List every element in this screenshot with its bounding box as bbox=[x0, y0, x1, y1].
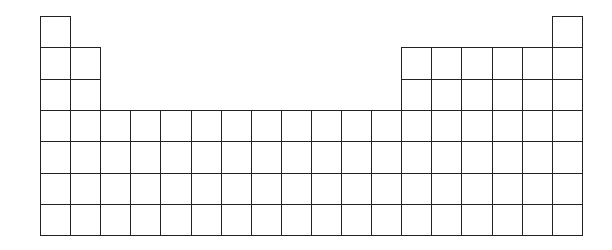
element-cell bbox=[371, 204, 402, 237]
element-cell bbox=[221, 173, 252, 206]
element-cell bbox=[251, 141, 282, 174]
element-cell bbox=[461, 173, 492, 206]
periodic-table-grid bbox=[0, 0, 612, 250]
element-cell bbox=[40, 173, 71, 206]
element-cell bbox=[130, 204, 161, 237]
element-cell bbox=[160, 110, 191, 143]
element-cell bbox=[40, 141, 71, 174]
element-cell bbox=[160, 141, 191, 174]
element-cell bbox=[461, 204, 492, 237]
element-cell bbox=[492, 79, 523, 112]
element-cell bbox=[221, 141, 252, 174]
element-cell bbox=[371, 110, 402, 143]
element-cell bbox=[221, 204, 252, 237]
element-cell bbox=[522, 204, 553, 237]
element-cell bbox=[552, 79, 583, 112]
element-cell bbox=[461, 79, 492, 112]
element-cell bbox=[160, 204, 191, 237]
element-cell bbox=[492, 173, 523, 206]
element-cell bbox=[191, 173, 222, 206]
element-cell bbox=[552, 141, 583, 174]
element-cell bbox=[100, 204, 131, 237]
element-cell bbox=[431, 204, 462, 237]
element-cell bbox=[70, 47, 101, 80]
element-cell bbox=[492, 47, 523, 80]
element-cell bbox=[281, 141, 312, 174]
element-cell bbox=[100, 141, 131, 174]
element-cell bbox=[341, 110, 372, 143]
element-cell bbox=[492, 204, 523, 237]
element-cell bbox=[431, 173, 462, 206]
element-cell bbox=[281, 204, 312, 237]
element-cell bbox=[552, 16, 583, 49]
element-cell bbox=[311, 141, 342, 174]
element-cell bbox=[431, 47, 462, 80]
element-cell bbox=[40, 79, 71, 112]
element-cell bbox=[552, 110, 583, 143]
element-cell bbox=[311, 110, 342, 143]
element-cell bbox=[401, 79, 432, 112]
element-cell bbox=[251, 110, 282, 143]
element-cell bbox=[130, 173, 161, 206]
element-cell bbox=[401, 141, 432, 174]
element-cell bbox=[251, 204, 282, 237]
element-cell bbox=[431, 141, 462, 174]
element-cell bbox=[130, 110, 161, 143]
element-cell bbox=[341, 141, 372, 174]
element-cell bbox=[552, 173, 583, 206]
element-cell bbox=[371, 173, 402, 206]
element-cell bbox=[70, 141, 101, 174]
element-cell bbox=[492, 141, 523, 174]
element-cell bbox=[552, 204, 583, 237]
element-cell bbox=[221, 110, 252, 143]
element-cell bbox=[522, 173, 553, 206]
element-cell bbox=[431, 79, 462, 112]
element-cell bbox=[461, 47, 492, 80]
element-cell bbox=[492, 110, 523, 143]
element-cell bbox=[401, 204, 432, 237]
element-cell bbox=[522, 141, 553, 174]
element-cell bbox=[70, 79, 101, 112]
element-cell bbox=[461, 141, 492, 174]
element-cell bbox=[281, 173, 312, 206]
element-cell bbox=[100, 173, 131, 206]
element-cell bbox=[40, 16, 71, 49]
element-cell bbox=[40, 204, 71, 237]
element-cell bbox=[191, 204, 222, 237]
element-cell bbox=[70, 110, 101, 143]
element-cell bbox=[401, 110, 432, 143]
element-cell bbox=[341, 204, 372, 237]
element-cell bbox=[552, 47, 583, 80]
element-cell bbox=[40, 110, 71, 143]
element-cell bbox=[130, 141, 161, 174]
element-cell bbox=[522, 79, 553, 112]
element-cell bbox=[70, 173, 101, 206]
element-cell bbox=[191, 110, 222, 143]
element-cell bbox=[311, 173, 342, 206]
element-cell bbox=[70, 204, 101, 237]
element-cell bbox=[311, 204, 342, 237]
element-cell bbox=[522, 110, 553, 143]
element-cell bbox=[401, 47, 432, 80]
element-cell bbox=[401, 173, 432, 206]
element-cell bbox=[461, 110, 492, 143]
element-cell bbox=[371, 141, 402, 174]
element-cell bbox=[341, 173, 372, 206]
element-cell bbox=[100, 110, 131, 143]
element-cell bbox=[281, 110, 312, 143]
element-cell bbox=[431, 110, 462, 143]
element-cell bbox=[191, 141, 222, 174]
element-cell bbox=[251, 173, 282, 206]
element-cell bbox=[40, 47, 71, 80]
element-cell bbox=[160, 173, 191, 206]
element-cell bbox=[522, 47, 553, 80]
